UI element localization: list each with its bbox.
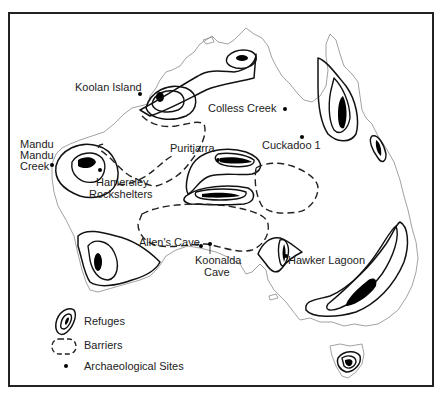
- site-label: Cave: [204, 266, 230, 278]
- legend-label: Archaeological Sites: [84, 360, 184, 372]
- site-label: Cuckadoo 1: [262, 139, 321, 151]
- map-legend: Refuges Barriers Archaeological Sites: [52, 309, 184, 372]
- site-label: Colless Creek: [208, 102, 277, 114]
- barrier-simpson: [255, 163, 318, 213]
- site-mandu-mandu-creek: Mandu Mandu Creek: [20, 138, 54, 172]
- site-label: Koolan Island: [75, 81, 142, 93]
- legend-item-archaeological-sites: Archaeological Sites: [64, 360, 184, 372]
- site-label: Hawker Lagoon: [288, 254, 365, 266]
- site-dot-icon: [64, 364, 68, 368]
- legend-item-refuges: Refuges: [56, 309, 126, 335]
- refuge-icon: [56, 309, 75, 335]
- site-label: Koonalda: [195, 254, 242, 266]
- site-label: Hamersley: [96, 176, 149, 188]
- refuge-central-north: [186, 149, 260, 194]
- refuge-southeast: [306, 222, 408, 316]
- site-dot: [98, 168, 102, 172]
- island: [269, 294, 278, 300]
- site-label: Puritjarra: [170, 142, 216, 154]
- legend-label: Barriers: [84, 339, 123, 351]
- site-label: Rockshelters: [89, 188, 153, 200]
- site-allens-cave: Allen's Cave: [139, 236, 203, 248]
- australia-refuges-map: Koolan Island Colless Creek Cuckadoo 1 M…: [0, 0, 442, 395]
- barrier-icon: [52, 339, 76, 354]
- site-hamersley-rockshelters: Hamersley Rockshelters: [89, 176, 153, 200]
- refuge-cape-york: [318, 58, 358, 141]
- refuge-east-coast-north: [370, 136, 386, 162]
- site-koolan-island: Koolan Island: [75, 81, 142, 96]
- site-cuckadoo: Cuckadoo 1: [262, 135, 321, 151]
- legend-item-barriers: Barriers: [52, 339, 123, 354]
- refuge-tasmania: [337, 352, 360, 372]
- site-puritjarra: Puritjarra: [170, 142, 220, 162]
- site-label: Creek: [20, 160, 50, 172]
- legend-label: Refuges: [84, 315, 125, 327]
- site-hawker-lagoon: Hawker Lagoon: [284, 254, 365, 266]
- site-label: Allen's Cave: [139, 236, 200, 248]
- site-colless-creek: Colless Creek: [208, 102, 287, 114]
